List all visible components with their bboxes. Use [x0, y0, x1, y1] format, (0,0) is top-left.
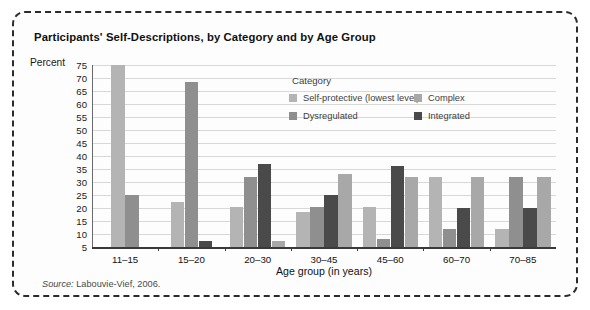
bar: [111, 65, 125, 247]
y-axis-tick-label: 5: [82, 242, 87, 253]
legend-label: Dysregulated: [303, 111, 358, 121]
legend-swatch-icon: [289, 112, 297, 120]
y-axis-tick-label: 60: [76, 99, 87, 110]
y-axis-title: Percent: [30, 57, 65, 68]
bar: [391, 166, 405, 247]
source-text: Labouvie-Vief, 2006.: [74, 279, 161, 289]
bar: [405, 177, 419, 247]
legend-swatch-icon: [289, 94, 297, 102]
legend-swatch-icon: [414, 112, 422, 120]
bar: [443, 229, 457, 247]
legend-swatch-icon: [414, 94, 422, 102]
bar: [429, 177, 443, 247]
bar: [509, 177, 523, 247]
bar: [125, 195, 139, 247]
bar: [338, 174, 352, 247]
y-axis-line: [92, 65, 93, 247]
bar: [523, 208, 537, 247]
y-axis-tick-label: 30: [76, 177, 87, 188]
legend-title: Category: [289, 75, 534, 86]
bar: [185, 82, 199, 247]
bar: [537, 177, 551, 247]
legend-item[interactable]: Self-protective (lowest level): [289, 93, 414, 103]
gridline: [92, 65, 556, 66]
y-axis-tick-label: 55: [76, 112, 87, 123]
y-axis-tick-label: 75: [76, 60, 87, 71]
bar: [230, 207, 244, 247]
legend-row: DysregulatedIntegrated: [289, 111, 534, 121]
figure-frame: Participants' Self-Descriptions, by Cate…: [12, 11, 578, 297]
x-axis-title: Age group (in years): [92, 265, 556, 277]
y-axis-tick-label: 25: [76, 190, 87, 201]
bar: [377, 239, 391, 247]
legend-item[interactable]: Dysregulated: [289, 111, 414, 121]
x-axis-line: [92, 247, 556, 249]
x-axis-tick-label: 11–15: [112, 254, 138, 265]
source-prefix: Source:: [42, 279, 74, 289]
y-axis-tick-label: 70: [76, 73, 87, 84]
bar: [171, 202, 185, 248]
page-title: Participants' Self-Descriptions, by Cate…: [34, 31, 376, 43]
bar: [258, 164, 272, 247]
bar: [363, 207, 377, 247]
gridline: [92, 143, 556, 144]
bar: [457, 208, 471, 247]
x-axis-tick-label: 20–30: [244, 254, 271, 265]
legend-row: Self-protective (lowest level)Complex: [289, 93, 534, 103]
gridline: [92, 182, 556, 183]
x-axis-tick-label: 15–20: [178, 254, 205, 265]
bar: [296, 212, 310, 247]
x-axis-tick-label: 30–45: [311, 254, 338, 265]
y-axis-tick-label: 35: [76, 164, 87, 175]
chart-legend: Category Self-protective (lowest level)C…: [289, 75, 534, 129]
legend-item[interactable]: Integrated: [414, 111, 470, 121]
x-axis-tick-label: 45–60: [377, 254, 404, 265]
gridline: [92, 169, 556, 170]
legend-item[interactable]: Complex: [414, 93, 465, 103]
legend-label: Integrated: [428, 111, 470, 121]
legend-rows: Self-protective (lowest level)ComplexDys…: [289, 93, 534, 121]
gridline: [92, 130, 556, 131]
x-axis-tick-label: 60–70: [443, 254, 470, 265]
x-axis-tick-label: 70–85: [509, 254, 536, 265]
y-axis-tick-label: 10: [76, 229, 87, 240]
bar: [310, 207, 324, 247]
y-axis-tick-label: 15: [76, 216, 87, 227]
legend-label: Complex: [428, 93, 465, 103]
bar: [495, 229, 509, 247]
legend-label: Self-protective (lowest level): [303, 93, 419, 103]
bar: [324, 195, 338, 247]
bar: [471, 177, 485, 247]
bar: [244, 177, 258, 247]
y-axis-tick-label: 45: [76, 138, 87, 149]
y-axis-tick-label: 65: [76, 86, 87, 97]
y-axis-tick-label: 20: [76, 203, 87, 214]
gridline: [92, 156, 556, 157]
y-axis-tick-label: 50: [76, 125, 87, 136]
source-note: Source: Labouvie-Vief, 2006.: [42, 279, 160, 289]
y-axis-tick-label: 40: [76, 151, 87, 162]
